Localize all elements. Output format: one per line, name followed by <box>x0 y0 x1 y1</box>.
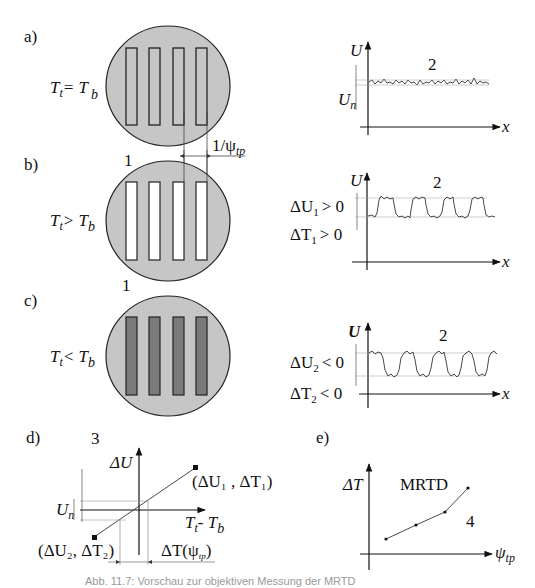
point-2-label: (ΔU₂, ΔT₂) <box>38 541 114 560</box>
noise-signal <box>369 78 489 85</box>
square-wave-positive <box>368 196 495 218</box>
x-axis-label: x <box>501 252 510 271</box>
marker-1-top: 1 <box>124 151 133 170</box>
y-axis-label: U <box>348 322 361 341</box>
square-wave-negative <box>369 351 497 377</box>
panel-b: b) 1 Tt> Tb 1 U x 2 ΔU1> 0 ΔT1> 0 <box>24 150 510 295</box>
curve-id: 2 <box>439 326 448 345</box>
x-axis-label: x <box>501 384 510 403</box>
condition-c: Tt< Tb <box>50 347 95 370</box>
point-2-marker <box>92 535 97 540</box>
response-line <box>94 468 195 537</box>
threshold-label: ΔT(ψtp) <box>161 541 211 561</box>
panel-a: a) Tt= Tb 1/ψtp U x 2 U <box>24 26 510 187</box>
panel-e: e) ΔT ψtp MRTD 4 <box>316 428 515 570</box>
delta-u1-label: ΔU1> 0 <box>290 197 344 218</box>
curve-id-3: 3 <box>91 429 100 448</box>
curve-id: 2 <box>433 173 442 192</box>
signal-graph-c: U x 2 ΔU2< 0 ΔT2< 0 <box>290 322 510 408</box>
panel-b-label: b) <box>24 155 38 174</box>
panel-c-label: c) <box>24 291 37 310</box>
x-axis-label: x <box>501 117 510 136</box>
noise-label-d: Un <box>56 500 74 522</box>
point-1-label: (ΔU₁ , ΔT₁) <box>192 472 272 491</box>
target-disk-a <box>106 26 230 146</box>
target-disk-b <box>106 161 230 281</box>
marker-1-bottom: 1 <box>122 276 131 295</box>
x-axis-label: ψtp <box>495 543 515 565</box>
delta-t1-label: ΔT1> 0 <box>290 225 342 246</box>
signal-graph-a: U x 2 Un <box>338 41 510 136</box>
point-1-marker <box>193 465 198 470</box>
mrtd-curve <box>386 488 468 539</box>
mrtd-title: MRTD <box>400 475 448 494</box>
panel-c: c) Tt< Tb U x 2 ΔU2< 0 ΔT2< 0 <box>24 291 510 416</box>
condition-a: Tt= Tb <box>50 78 98 102</box>
target-disk-c <box>106 296 230 416</box>
noise-label: Un <box>338 90 356 112</box>
condition-b: Tt> Tb <box>50 211 95 234</box>
delta-t2-label: ΔT2< 0 <box>290 384 342 405</box>
panel-d-label: d) <box>26 428 40 447</box>
y-axis-label: U <box>350 41 364 60</box>
period-label: 1/ψtp <box>212 136 245 158</box>
y-axis-label: ΔU <box>109 453 134 472</box>
delta-u2-label: ΔU2< 0 <box>290 353 344 374</box>
mrtd-points <box>384 486 469 540</box>
diagram-canvas: a) Tt= Tb 1/ψtp U x 2 U <box>0 0 535 588</box>
signal-graph-b: U x 2 ΔU1> 0 ΔT1> 0 <box>290 171 510 271</box>
panel-e-label: e) <box>316 428 329 447</box>
figure-caption: Abb. 11.7: Vorschau zur objektiven Messu… <box>85 575 355 587</box>
y-axis-label: ΔT <box>342 475 364 494</box>
x-axis-label: Tt- Tb <box>185 513 224 536</box>
panel-d: d) 3 ΔU Tt- Tb (ΔU₁ , ΔT₁) (ΔU₂, ΔT₂) Un… <box>26 428 272 565</box>
panel-a-label: a) <box>24 27 37 46</box>
curve-id-4: 4 <box>466 512 475 531</box>
y-axis-label: U <box>350 171 364 190</box>
curve-id: 2 <box>428 55 437 74</box>
